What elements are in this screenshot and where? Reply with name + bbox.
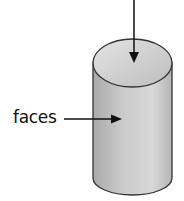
faces-label: faces bbox=[13, 107, 57, 127]
top-arrow bbox=[129, 0, 139, 63]
cylinder-diagram bbox=[0, 0, 184, 201]
top-face bbox=[93, 39, 172, 87]
cylinder bbox=[93, 39, 172, 195]
